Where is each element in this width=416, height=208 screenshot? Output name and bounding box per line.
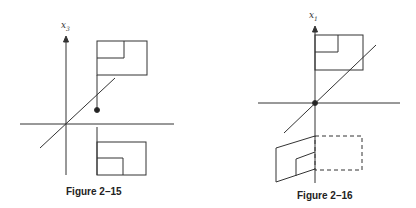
figure-2-16: [258, 26, 400, 183]
arrow-icon: [64, 36, 69, 42]
caption-figure-2-15: Figure 2–15: [66, 186, 122, 197]
caption-figure-2-16: Figure 2–16: [297, 190, 353, 201]
axis-label-x3: x3: [61, 20, 70, 32]
figure-2-15: [20, 36, 174, 175]
axis-label-x1: x1: [309, 10, 318, 22]
